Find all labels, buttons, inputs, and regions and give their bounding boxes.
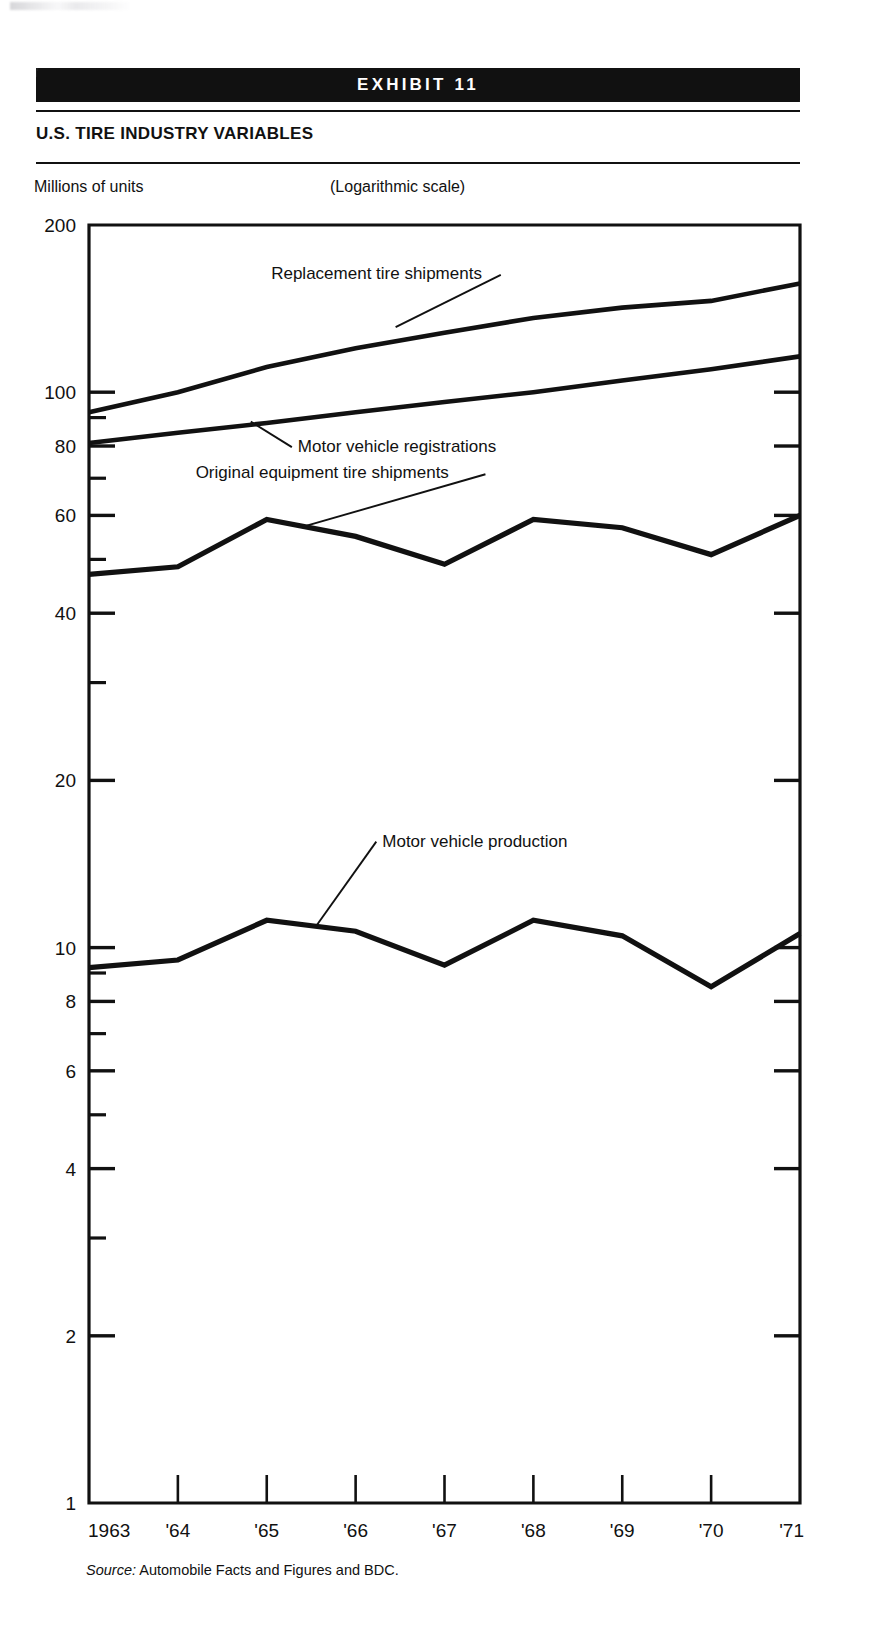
x-axis-tick-label: '68 — [521, 1520, 546, 1540]
x-axis-tick-label: 1963 — [88, 1520, 130, 1540]
series-leader-line — [251, 422, 292, 447]
divider-under-band — [36, 110, 800, 112]
y-axis-tick-label: 4 — [65, 1159, 76, 1180]
x-axis-tick-label: '69 — [610, 1520, 635, 1540]
series-leader-line — [396, 275, 501, 327]
x-axis-tick-label: '70 — [699, 1520, 724, 1540]
y-axis-tick-label: 8 — [65, 991, 76, 1012]
series-label: Motor vehicle registrations — [298, 437, 496, 456]
y-axis-tick-label: 2 — [65, 1326, 76, 1347]
y-axis-tick-label: 40 — [55, 603, 76, 624]
x-axis-tick-label: '64 — [165, 1520, 190, 1540]
plot-frame — [89, 225, 800, 1503]
series-leader-line — [316, 842, 377, 927]
x-axis-tick-label: '67 — [432, 1520, 457, 1540]
source-text: Automobile Facts and Figures and BDC. — [139, 1562, 399, 1578]
series-line — [89, 515, 800, 574]
divider-under-title — [36, 162, 800, 164]
series-line — [89, 920, 800, 987]
chart-plot-area: 2001008060402010864211963'64'65'66'67'68… — [0, 0, 888, 1630]
x-axis-tick-label: '71 — [779, 1520, 804, 1540]
y-axis-tick-label: 60 — [55, 505, 76, 526]
y-axis-tick-label: 1 — [65, 1493, 76, 1514]
series-label: Original equipment tire shipments — [196, 463, 449, 482]
y-axis-tick-label: 20 — [55, 770, 76, 791]
series-line — [89, 283, 800, 412]
exhibit-number-label: EXHIBIT 11 — [357, 75, 479, 95]
page-title: U.S. TIRE INDUSTRY VARIABLES — [36, 124, 313, 144]
line-chart: 2001008060402010864211963'64'65'66'67'68… — [0, 0, 888, 1540]
y-axis-unit-label: Millions of units — [34, 178, 143, 196]
y-axis-tick-label: 100 — [44, 382, 76, 403]
series-line — [89, 356, 800, 443]
exhibit-page: EXHIBIT 11 U.S. TIRE INDUSTRY VARIABLES … — [0, 0, 888, 1630]
source-prefix: Source: — [86, 1562, 136, 1578]
scale-note-label: (Logarithmic scale) — [330, 178, 465, 196]
series-leader-line — [307, 474, 486, 525]
scan-artifact — [10, 2, 130, 10]
y-axis-tick-label: 6 — [65, 1061, 76, 1082]
source-note: Source: Automobile Facts and Figures and… — [86, 1562, 399, 1578]
series-label: Motor vehicle production — [382, 832, 567, 851]
exhibit-band: EXHIBIT 11 — [36, 68, 800, 102]
y-axis-tick-label: 200 — [44, 215, 76, 236]
x-axis-tick-label: '65 — [254, 1520, 279, 1540]
y-axis-tick-label: 80 — [55, 436, 76, 457]
series-label: Replacement tire shipments — [271, 264, 482, 283]
y-axis-tick-label: 10 — [55, 938, 76, 959]
x-axis-tick-label: '66 — [343, 1520, 368, 1540]
